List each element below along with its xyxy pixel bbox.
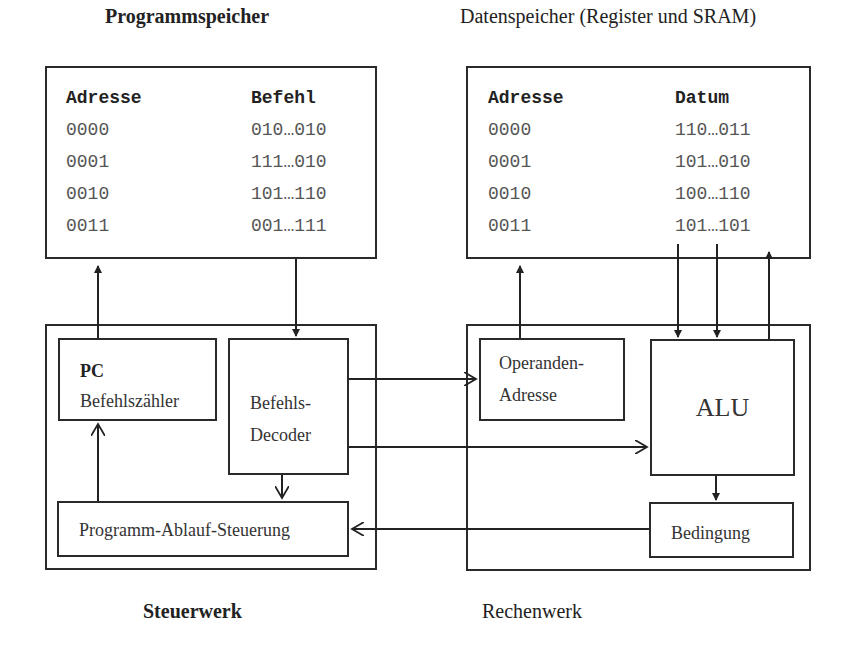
signal-wires [0, 0, 845, 648]
